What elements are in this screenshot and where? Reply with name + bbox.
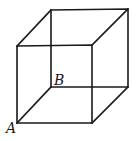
edge-bottom-left-A-B [17, 87, 51, 123]
edge-top-left [17, 10, 51, 46]
edge-bottom-right [92, 87, 128, 123]
vertex-label-b: B [53, 72, 64, 88]
vertex-label-a: A [4, 120, 16, 136]
cube-diagram: A B [0, 0, 136, 141]
edge-top-right [92, 9, 128, 45]
